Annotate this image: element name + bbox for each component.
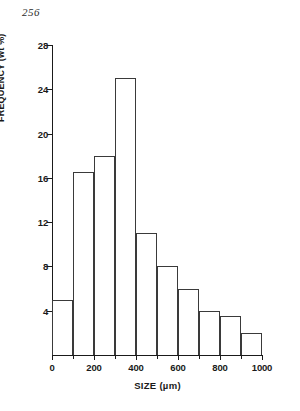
histogram-bar bbox=[115, 78, 136, 355]
histogram-bar bbox=[220, 316, 241, 355]
histogram-bar bbox=[157, 266, 178, 355]
x-tick-mark bbox=[136, 355, 137, 360]
y-tick-label: 16 bbox=[38, 172, 48, 183]
x-tick-mark-minor bbox=[157, 355, 158, 359]
histogram-bar bbox=[52, 300, 73, 355]
plot-area: 481216202428 02004006008001000 bbox=[52, 45, 262, 355]
y-tick-label: 12 bbox=[38, 217, 48, 228]
histogram-figure: FREQUENCY (wt %) SIZE (µm) 481216202428 … bbox=[0, 0, 300, 411]
histogram-bar bbox=[94, 156, 115, 355]
x-tick-label: 0 bbox=[49, 362, 54, 373]
histogram-bar bbox=[73, 172, 94, 355]
histogram-bar bbox=[241, 333, 262, 355]
y-axis-title: FREQUENCY (wt %) bbox=[0, 33, 6, 122]
x-tick-mark-minor bbox=[73, 355, 74, 359]
histogram-bar bbox=[178, 289, 199, 355]
x-tick-label: 800 bbox=[212, 362, 227, 373]
x-tick-mark-minor bbox=[115, 355, 116, 359]
x-tick-mark bbox=[262, 355, 263, 360]
y-tick-label: 20 bbox=[38, 128, 48, 139]
x-tick-label: 600 bbox=[170, 362, 185, 373]
y-tick-label: 4 bbox=[43, 305, 48, 316]
x-tick-mark bbox=[220, 355, 221, 360]
y-tick-label: 28 bbox=[38, 40, 48, 51]
x-tick-label: 1000 bbox=[252, 362, 272, 373]
x-axis-title: SIZE (µm) bbox=[52, 380, 263, 391]
x-tick-mark bbox=[94, 355, 95, 360]
x-tick-mark-minor bbox=[241, 355, 242, 359]
histogram-bar bbox=[199, 311, 220, 355]
x-tick-mark bbox=[52, 355, 53, 360]
x-tick-label: 400 bbox=[128, 362, 143, 373]
histogram-bar bbox=[136, 233, 157, 355]
y-tick-label: 8 bbox=[43, 261, 48, 272]
y-tick-label: 24 bbox=[38, 84, 48, 95]
x-tick-mark bbox=[178, 355, 179, 360]
x-tick-mark-minor bbox=[199, 355, 200, 359]
x-tick-label: 200 bbox=[86, 362, 101, 373]
